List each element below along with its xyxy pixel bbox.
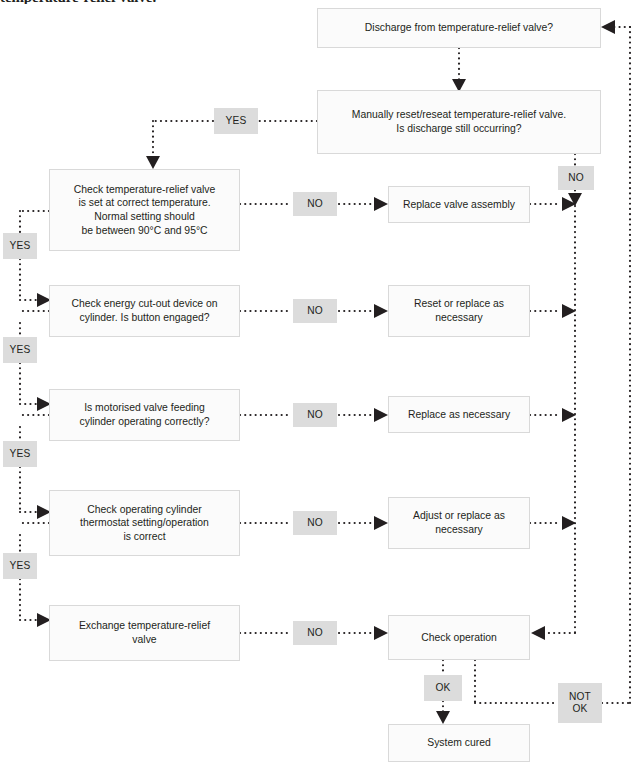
label-ok: OK [424,675,462,701]
text-line: is correct [56,530,233,544]
arrowhead-row4 [374,516,388,530]
node-manual-reset-label: Manually reset/reseat temperature-relief… [324,108,594,135]
label-no-1: NO [293,192,337,216]
arrowhead-row3 [374,408,388,422]
label-yes-2-text: YES [10,344,31,356]
text-line: Check operating cylinder [56,503,233,517]
label-no-5-text: NO [307,627,323,639]
label-no-1-text: NO [307,198,323,210]
label-yes-4-text: YES [10,560,31,572]
node-discharge-question-label: Discharge from temperature-relief valve? [324,21,594,35]
arrowhead-reset-no [568,193,582,206]
node-check-energy-cutout[interactable]: Check energy cut-out device oncylinder. … [49,285,240,337]
text-line: valve [56,633,233,647]
arrowhead-to-box1 [146,156,160,169]
text-line: Is discharge still occurring? [324,122,594,136]
node-replace-valve-assembly-label: Replace valve assembly [395,198,523,212]
text-line: Exchange temperature-relief [56,619,233,633]
text-line: cylinder operating correctly? [56,415,233,429]
arrowhead-r3-trunk [562,408,576,422]
text-line: cylinder. Is button engaged? [56,311,233,325]
label-not-ok: NOTOK [558,683,602,723]
arrowhead-row2 [374,304,388,318]
label-no-3: NO [293,403,337,427]
node-discharge-question[interactable]: Discharge from temperature-relief valve? [317,8,601,48]
node-check-energy-cutout-label: Check energy cut-out device oncylinder. … [56,297,233,324]
node-check-operation[interactable]: Check operation [388,615,530,660]
node-replace-as-necessary-label: Replace as necessary [395,408,523,422]
text-line: OK [569,703,591,715]
node-check-trv-temperature-label: Check temperature-relief valveis set at … [56,183,233,237]
text-line: Reset or replace as [395,297,523,311]
text-line: Is motorised valve feeding [56,401,233,415]
label-no-4-text: NO [307,517,323,529]
node-adjust-or-replace-label: Adjust or replace asnecessary [395,509,523,536]
flowchart-canvas: temperature-relief valve. [0,0,641,765]
node-check-thermostat[interactable]: Check operating cylinderthermostat setti… [49,490,240,556]
label-no-right-text: NO [568,172,584,184]
text-line: thermostat setting/operation [56,516,233,530]
node-exchange-trv-label: Exchange temperature-reliefvalve [56,619,233,646]
node-adjust-or-replace[interactable]: Adjust or replace asnecessary [388,497,530,549]
arrowhead-row5 [374,626,388,640]
text-line: necessary [395,311,523,325]
label-yes-top: YES [214,108,258,134]
label-no-3-text: NO [307,409,323,421]
label-yes-3: YES [3,441,37,467]
label-no-right: NO [558,166,594,190]
arrowhead-return-to-discharge [601,20,615,34]
node-check-operation-label: Check operation [395,631,523,645]
node-check-motorised-valve[interactable]: Is motorised valve feedingcylinder opera… [49,389,240,441]
text-line: necessary [395,523,523,537]
label-yes-4: YES [3,553,37,579]
label-yes-1-text: YES [10,240,31,252]
text-line: be between 90°C and 95°C [56,224,233,238]
node-manual-reset[interactable]: Manually reset/reseat temperature-relief… [317,90,601,154]
node-check-trv-temperature[interactable]: Check temperature-relief valveis set at … [49,169,240,251]
label-no-2-text: NO [307,305,323,317]
label-no-4: NO [293,511,337,535]
node-reset-or-replace-label: Reset or replace asnecessary [395,297,523,324]
label-not-ok-text: NOTOK [569,691,591,715]
arrowhead-trunk-to-checkop [531,626,545,640]
node-check-thermostat-label: Check operating cylinderthermostat setti… [56,503,233,544]
node-system-cured-label: System cured [395,736,523,750]
label-yes-top-text: YES [226,115,247,127]
node-replace-as-necessary[interactable]: Replace as necessary [388,396,530,433]
arrowhead-row1 [374,197,388,211]
arrowhead-r2-trunk [562,304,576,318]
node-reset-or-replace[interactable]: Reset or replace asnecessary [388,285,530,337]
node-system-cured[interactable]: System cured [388,724,530,762]
arrowhead-r1-trunk [562,197,576,211]
page-heading-partial: temperature-relief valve. [0,0,230,4]
text-line: NOT [569,691,591,703]
label-yes-3-text: YES [10,448,31,460]
label-no-2: NO [293,299,337,323]
arrowhead-r4-trunk [562,516,576,530]
text-line: Manually reset/reseat temperature-relief… [324,108,594,122]
text-line: Check temperature-relief valve [56,183,233,197]
node-exchange-trv[interactable]: Exchange temperature-reliefvalve [49,605,240,661]
text-line: is set at correct temperature. [56,196,233,210]
node-replace-valve-assembly[interactable]: Replace valve assembly [388,186,530,223]
node-check-motorised-valve-label: Is motorised valve feedingcylinder opera… [56,401,233,428]
arrowhead-to-system-cured [436,711,450,724]
label-no-5: NO [293,621,337,645]
text-line: Normal setting should [56,210,233,224]
label-yes-2: YES [3,337,37,363]
text-line: Check energy cut-out device on [56,297,233,311]
label-ok-text: OK [435,682,450,694]
label-yes-1: YES [3,233,37,259]
text-line: Adjust or replace as [395,509,523,523]
